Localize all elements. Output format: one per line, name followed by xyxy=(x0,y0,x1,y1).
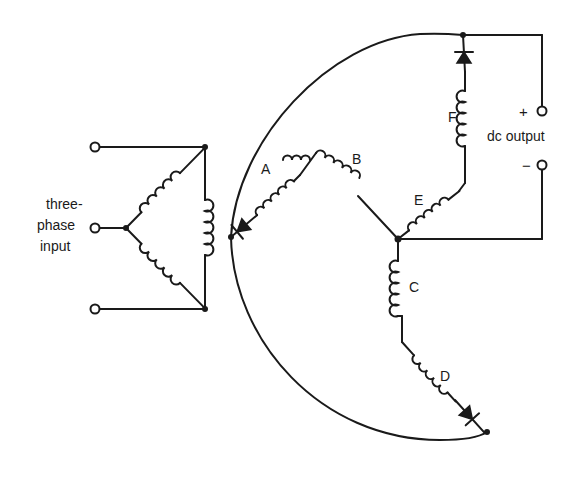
diode-D xyxy=(448,394,491,439)
output-terminal-negative xyxy=(538,161,547,170)
winding-label-D: D xyxy=(440,368,450,384)
input-label-line2: phase xyxy=(37,217,75,233)
delta-coil-lower xyxy=(122,228,204,312)
winding-C xyxy=(390,261,398,317)
winding-label-F: F xyxy=(448,109,457,125)
diode-F xyxy=(455,35,473,72)
delta-coil-right xyxy=(205,200,213,256)
delta-primary: three- phase input xyxy=(37,143,213,314)
input-label-line1: three- xyxy=(46,196,83,212)
winding-label-A: A xyxy=(261,161,271,177)
delta-coil-upper xyxy=(122,144,204,228)
winding-B-top xyxy=(283,156,310,161)
winding-label-B: B xyxy=(352,151,361,167)
winding-label-E: E xyxy=(414,192,423,208)
dc-output: + dc output − xyxy=(398,35,547,239)
branch-EF: E F xyxy=(395,35,473,239)
winding-E xyxy=(395,187,460,239)
node xyxy=(202,144,208,150)
input-terminal-top xyxy=(91,143,100,152)
arc-bus-top xyxy=(231,34,463,237)
output-plus-label: + xyxy=(519,103,528,120)
input-terminal-bottom xyxy=(91,305,100,314)
winding-A xyxy=(254,178,295,215)
branch-CD: C D xyxy=(390,239,492,439)
input-label-line3: input xyxy=(40,238,70,254)
arc-bus-bottom xyxy=(231,237,487,440)
input-terminal-middle xyxy=(91,224,100,233)
output-label: dc output xyxy=(487,128,545,144)
node xyxy=(123,225,129,231)
winding-label-C: C xyxy=(409,279,419,295)
node xyxy=(202,306,208,312)
winding-F xyxy=(457,91,465,147)
rectifier-diagram: three- phase input A B xyxy=(0,0,588,480)
output-minus-label: − xyxy=(522,157,531,174)
output-terminal-positive xyxy=(538,107,547,116)
